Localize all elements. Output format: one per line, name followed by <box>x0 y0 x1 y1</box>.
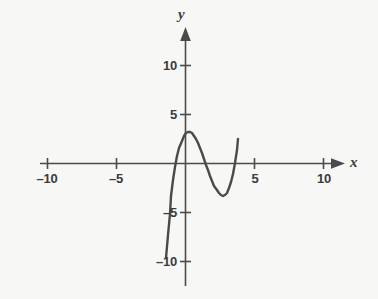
x-tick-label-10: 10 <box>317 171 331 186</box>
y-axis-arrowhead-icon <box>180 27 191 41</box>
y-tick-label-10: 10 <box>163 58 177 73</box>
chart-figure: –10 –5 5 10 10 5 –5 –10 x y <box>0 0 378 299</box>
y-tick-label-5: 5 <box>170 107 177 122</box>
x-tick-label--5: –5 <box>109 171 123 186</box>
x-axis-name: x <box>350 154 358 171</box>
x-tick-label-5: 5 <box>251 171 258 186</box>
x-tick-label--10: –10 <box>36 171 57 186</box>
cubic-curve <box>166 132 238 258</box>
x-axis-arrowhead-icon <box>331 158 345 169</box>
y-tick-label--10: –10 <box>156 254 177 269</box>
cartesian-plot <box>0 0 378 299</box>
y-axis-name: y <box>178 6 185 23</box>
y-tick-label--5: –5 <box>163 205 177 220</box>
